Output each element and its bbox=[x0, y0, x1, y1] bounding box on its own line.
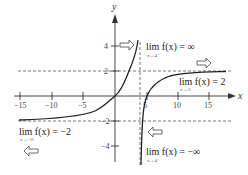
lim-subscript: x→∞ bbox=[180, 87, 192, 92]
annotation-lim-right-neginf: lim f(x) = −∞ x→4⁺ bbox=[146, 127, 200, 163]
lim-subscript: x→4⁻ bbox=[147, 53, 160, 58]
y-tick-2: 2 bbox=[104, 67, 108, 76]
arrow-left-icon bbox=[24, 146, 38, 156]
limits-graph: −15 −10 −5 5 10 15 x 4 2 −2 −4 y lim f(x… bbox=[0, 0, 248, 175]
x-tick-neg10: −10 bbox=[45, 101, 58, 110]
annotation-lim-neg-inf: lim f(x) = −2 x→−∞ bbox=[19, 126, 71, 156]
x-axis-label: x bbox=[237, 90, 243, 101]
arrow-right-icon bbox=[120, 40, 134, 50]
x-tick-10: 10 bbox=[173, 101, 181, 110]
y-tick-neg2: −2 bbox=[101, 117, 110, 126]
y-axis-label: y bbox=[111, 1, 117, 12]
y-axis: 4 2 −2 −4 y bbox=[101, 1, 119, 162]
lim-label: lim f(x) = −∞ bbox=[146, 146, 200, 158]
annotation-lim-left-inf: lim f(x) = ∞ x→4⁻ bbox=[120, 40, 195, 58]
y-tick-4: 4 bbox=[104, 42, 108, 51]
lim-subscript: x→4⁺ bbox=[147, 158, 160, 163]
y-tick-neg4: −4 bbox=[101, 142, 110, 151]
arrow-left-icon bbox=[148, 127, 162, 137]
x-tick-neg15: −15 bbox=[14, 101, 27, 110]
x-tick-15: 15 bbox=[204, 101, 212, 110]
x-tick-neg5: −5 bbox=[78, 101, 87, 110]
lim-label: lim f(x) = ∞ bbox=[146, 41, 195, 53]
x-axis: −15 −10 −5 5 10 15 x bbox=[14, 90, 243, 110]
annotation-lim-pos-inf: lim f(x) = 2 x→∞ bbox=[179, 58, 225, 92]
arrow-right-icon bbox=[197, 58, 211, 68]
lim-subscript: x→−∞ bbox=[20, 137, 34, 142]
